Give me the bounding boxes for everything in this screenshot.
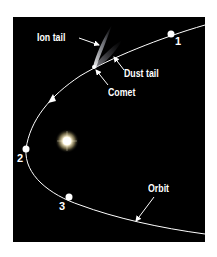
- orbit-pointer: [136, 197, 154, 221]
- diagram-canvas: [0, 0, 217, 257]
- sun-icon: [55, 129, 79, 153]
- position-3-marker: [66, 194, 73, 201]
- comet-pointer: [96, 70, 108, 85]
- comet-icon: [92, 65, 96, 69]
- orbit-path: [26, 25, 205, 234]
- ion-tail-label: Ion tail: [37, 33, 65, 43]
- ion-tail-pointer: [79, 38, 99, 45]
- position-1-marker: [168, 31, 175, 38]
- position-3-label: 3: [59, 201, 65, 212]
- position-2-marker: [23, 146, 30, 153]
- comet-label: Comet: [108, 88, 135, 98]
- position-2-label: 2: [17, 153, 23, 164]
- orbit-direction-arrow-icon: [48, 94, 56, 103]
- orbit-label: Orbit: [148, 184, 169, 194]
- position-1-label: 1: [175, 36, 181, 47]
- dust-tail-pointer: [114, 57, 124, 70]
- dust-tail-label: Dust tail: [124, 69, 159, 79]
